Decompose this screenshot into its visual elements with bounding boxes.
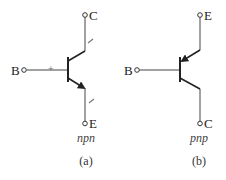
npn-caption: (a) <box>79 154 92 168</box>
npn-type-label: npn <box>77 131 95 145</box>
pnp-emitter-label: E <box>204 8 212 23</box>
pnp-base-terminal <box>135 68 140 73</box>
pnp-collector-diagonal <box>180 78 200 89</box>
pnp-transistor: B E C pnp (b) <box>124 8 213 169</box>
npn-emitter-label: E <box>89 116 97 131</box>
transistor-diagram: + B C E npn (a) B E C pnp (b) <box>0 0 226 180</box>
npn-transistor: + B C E npn (a) <box>11 8 98 169</box>
pnp-caption: (b) <box>192 154 206 168</box>
pnp-emitter-arrow <box>182 50 200 61</box>
pnp-emitter-terminal <box>198 13 203 18</box>
npn-base-plus-mark: + <box>48 63 54 74</box>
npn-collector-diagonal <box>68 51 85 61</box>
pnp-base-label: B <box>124 63 133 78</box>
npn-collector-label: C <box>89 8 98 23</box>
pnp-type-label: pnp <box>189 131 208 145</box>
npn-emitter-minus-mark <box>89 99 94 103</box>
npn-emitter-arrow <box>68 78 84 88</box>
pnp-collector-terminal <box>198 121 203 126</box>
pnp-collector-label: C <box>204 116 213 131</box>
npn-collector-minus-mark <box>88 39 93 43</box>
npn-base-terminal <box>22 68 27 73</box>
npn-base-label: B <box>11 63 20 78</box>
npn-emitter-terminal <box>83 121 88 126</box>
npn-collector-terminal <box>83 13 88 18</box>
